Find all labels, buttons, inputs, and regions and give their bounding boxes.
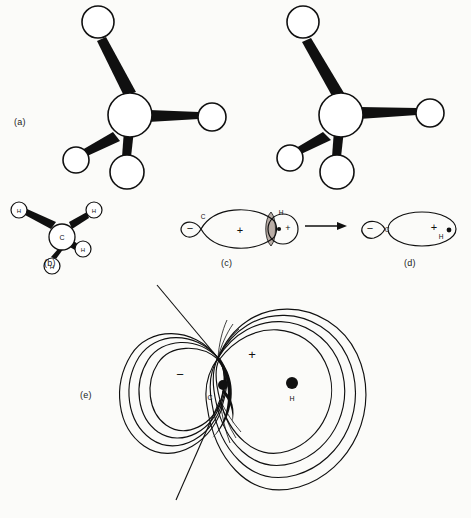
panel-label-b: (b)	[44, 258, 56, 268]
atom-sphere-right	[198, 103, 226, 131]
panel-c-sign-minus: −	[187, 222, 193, 234]
panel-a-molecule	[63, 6, 226, 189]
atom2-sphere-center	[319, 93, 363, 137]
atom2-sphere-top	[287, 6, 319, 38]
nucleus-hydrogen	[286, 377, 298, 389]
panel-d-label-hydrogen: H	[439, 233, 444, 240]
bond-center-to-top	[97, 37, 136, 96]
contour-plus-3	[210, 315, 355, 477]
panel-c-label-carbon: C	[201, 213, 206, 220]
atom2-sphere-bottom	[320, 155, 354, 189]
panel-a2-bonds	[296, 38, 417, 157]
atom-b-label-hydrogen-3: H	[81, 247, 85, 253]
nodal-plane-line	[157, 285, 218, 358]
contour-plus-1	[216, 330, 332, 454]
panel-e-contour-map: − + C H	[120, 285, 366, 500]
atom-b-label-hydrogen-2: H	[92, 208, 96, 214]
bond2-center-to-top	[302, 38, 344, 96]
sigma-orbital-minor-lobe	[362, 221, 385, 238]
panel-d-hydrogen-nucleus-dot	[447, 228, 452, 233]
panel-d-orbitals: C − + H	[362, 212, 456, 246]
atom-sphere-bottom	[110, 155, 144, 189]
panel-b-molecule: C H H H H	[11, 202, 102, 274]
atom-sphere-top	[82, 6, 114, 38]
panel-a2-molecule	[277, 6, 444, 189]
contour-plus-2	[213, 322, 345, 466]
atom-sphere-lower-left	[63, 147, 89, 173]
panel-e-sign-plus: +	[248, 347, 256, 362]
sigma-orbital-major-lobe	[388, 212, 456, 246]
panel-d-sign-plus: +	[431, 221, 437, 233]
atom2-sphere-lower-left	[277, 145, 303, 171]
panel-e-label-hydrogen: H	[289, 395, 294, 402]
reaction-arrow	[305, 222, 347, 230]
nodal-plane-line-lower	[176, 400, 220, 500]
panel-label-e: (e)	[80, 390, 92, 400]
figure-canvas: C H H H H C − + H +	[0, 0, 471, 518]
atom2-sphere-right	[416, 99, 444, 127]
bond-b-c-to-h1	[25, 209, 56, 229]
panel-c-label-hydrogen: H	[279, 209, 284, 216]
panel-d-sign-minus: −	[367, 222, 373, 234]
panel-e-sign-minus: −	[176, 367, 184, 382]
figure-vector-graphics: C H H H H C − + H +	[0, 0, 471, 518]
bond2-center-to-right	[359, 107, 417, 119]
panel-label-a: (a)	[14, 117, 26, 127]
atom-b-label-hydrogen-1: H	[17, 208, 21, 214]
panel-d-label-carbon: C	[385, 226, 390, 233]
hydrogen-nucleus-dot	[277, 227, 281, 231]
atom-sphere-center	[108, 93, 152, 137]
nucleus-carbon	[218, 380, 228, 390]
panel-c-sign-plus-hydrogen: +	[285, 223, 290, 233]
panel-c-sign-plus-carbon: +	[237, 224, 243, 236]
panel-label-c: (c)	[221, 258, 232, 268]
bond-center-to-right	[148, 110, 199, 122]
panel-c-orbitals: C − + H +	[181, 209, 298, 248]
panel-label-d: (d)	[404, 258, 416, 268]
reaction-arrow-head	[337, 222, 347, 230]
panel-e-label-carbon: C	[207, 394, 212, 401]
bond-b-c-to-h2	[69, 212, 89, 229]
atom-b-label-carbon: C	[59, 234, 64, 241]
